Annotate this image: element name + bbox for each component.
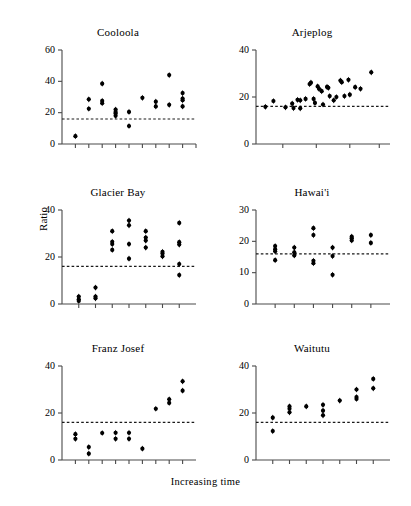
data-point bbox=[181, 90, 185, 96]
data-point bbox=[271, 428, 275, 434]
data-point bbox=[127, 430, 131, 436]
y-tick-label: 40 bbox=[239, 44, 249, 55]
data-point bbox=[167, 72, 171, 78]
data-point bbox=[369, 240, 373, 246]
multi-panel-scatter-figure: Cooloola 0204060 Arjeplog 02040 Glacier … bbox=[0, 0, 411, 506]
data-point bbox=[311, 232, 315, 238]
data-point bbox=[271, 98, 275, 104]
data-point bbox=[110, 228, 114, 234]
data-point bbox=[127, 241, 131, 247]
data-point bbox=[114, 436, 118, 442]
data-point bbox=[181, 378, 185, 384]
y-tick-label: 10 bbox=[239, 266, 249, 277]
data-point bbox=[346, 77, 350, 83]
data-point bbox=[330, 272, 334, 278]
data-point bbox=[87, 444, 91, 450]
data-point bbox=[87, 451, 91, 457]
plot-area-cooloola: 0204060 bbox=[32, 44, 204, 166]
panel-title-waitutu: Waitutu bbox=[226, 342, 398, 354]
data-point bbox=[371, 376, 375, 382]
data-point bbox=[369, 232, 373, 238]
data-point bbox=[354, 386, 358, 392]
data-point bbox=[140, 95, 144, 101]
data-point bbox=[181, 388, 185, 394]
data-point bbox=[181, 103, 185, 109]
data-point bbox=[263, 104, 267, 110]
data-point bbox=[369, 69, 373, 75]
y-tick-label: 0 bbox=[50, 138, 55, 149]
plot-area-hawaii: 0102030 bbox=[226, 204, 398, 326]
plot-area-waitutu: 02040 bbox=[226, 360, 398, 482]
y-tick-label: 20 bbox=[239, 91, 249, 102]
panel-cooloola: Cooloola 0204060 bbox=[32, 26, 204, 166]
data-point bbox=[73, 436, 77, 442]
panel-title-glacier-bay: Glacier Bay bbox=[32, 186, 204, 198]
y-tick-label: 0 bbox=[244, 454, 249, 465]
x-axis-label: Increasing time bbox=[0, 476, 411, 487]
data-point bbox=[127, 109, 131, 115]
data-point bbox=[177, 272, 181, 278]
data-point bbox=[330, 245, 334, 251]
panel-title-hawaii: Hawai'i bbox=[226, 186, 398, 198]
data-point bbox=[348, 92, 352, 98]
panel-franz-josef: Franz Josef 02040 bbox=[32, 342, 204, 482]
data-point bbox=[271, 415, 275, 421]
data-point bbox=[100, 81, 104, 87]
plot-area-arjeplog: 02040 bbox=[226, 44, 398, 166]
data-point bbox=[127, 123, 131, 129]
y-tick-label: 0 bbox=[244, 138, 249, 149]
data-point bbox=[110, 247, 114, 253]
panel-glacier-bay: Glacier Bay 02040 bbox=[32, 186, 204, 326]
y-tick-label: 0 bbox=[50, 298, 55, 309]
data-point bbox=[304, 403, 308, 409]
data-point bbox=[144, 245, 148, 251]
data-point bbox=[87, 96, 91, 102]
data-point bbox=[127, 256, 131, 262]
y-tick-label: 40 bbox=[45, 75, 55, 86]
data-point bbox=[303, 96, 307, 102]
data-point bbox=[358, 86, 362, 92]
y-tick-label: 30 bbox=[239, 204, 249, 215]
data-point bbox=[338, 397, 342, 403]
data-point bbox=[321, 402, 325, 408]
panel-hawaii: Hawai'i 0102030 bbox=[226, 186, 398, 326]
data-point bbox=[321, 412, 325, 418]
y-tick-label: 20 bbox=[45, 407, 55, 418]
data-point bbox=[144, 228, 148, 234]
data-point bbox=[342, 93, 346, 99]
panel-title-cooloola: Cooloola bbox=[32, 26, 204, 38]
panel-title-arjeplog: Arjeplog bbox=[226, 26, 398, 38]
panel-arjeplog: Arjeplog 02040 bbox=[226, 26, 398, 166]
y-tick-label: 60 bbox=[45, 44, 55, 55]
data-point bbox=[93, 284, 97, 290]
data-point bbox=[154, 406, 158, 412]
y-tick-label: 20 bbox=[239, 407, 249, 418]
panel-title-franz-josef: Franz Josef bbox=[32, 342, 204, 354]
data-point bbox=[127, 222, 131, 228]
data-point bbox=[273, 257, 277, 263]
data-point bbox=[114, 430, 118, 436]
y-tick-label: 40 bbox=[45, 360, 55, 371]
data-point bbox=[140, 446, 144, 452]
data-point bbox=[100, 430, 104, 436]
data-point bbox=[154, 103, 158, 109]
data-point bbox=[167, 102, 171, 108]
y-axis-label: Ratio bbox=[37, 179, 49, 259]
data-point bbox=[353, 84, 357, 90]
y-tick-label: 20 bbox=[239, 235, 249, 246]
data-point bbox=[328, 93, 332, 99]
data-point bbox=[127, 436, 131, 442]
data-point bbox=[311, 225, 315, 231]
data-point bbox=[73, 133, 77, 139]
data-point bbox=[177, 220, 181, 226]
plot-area-franz-josef: 02040 bbox=[32, 360, 204, 482]
y-tick-label: 40 bbox=[239, 360, 249, 371]
panel-waitutu: Waitutu 02040 bbox=[226, 342, 398, 482]
data-point bbox=[371, 385, 375, 391]
y-tick-label: 20 bbox=[45, 106, 55, 117]
y-tick-label: 0 bbox=[50, 454, 55, 465]
plot-area-glacier-bay: 02040 bbox=[32, 204, 204, 326]
data-point bbox=[87, 106, 91, 112]
data-point bbox=[283, 104, 287, 110]
y-tick-label: 0 bbox=[244, 298, 249, 309]
